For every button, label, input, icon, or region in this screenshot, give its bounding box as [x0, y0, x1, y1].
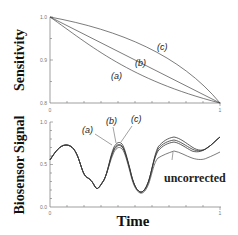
bottom-x-tick-1: 1: [219, 210, 222, 216]
annotation-leader-uncorrected: [172, 152, 173, 160]
bottom-annotation-b: (b): [106, 116, 117, 126]
annotation-leader-a: [95, 134, 112, 145]
bottom-y-tick-0.5: 0.5: [40, 161, 47, 167]
top-plot: Sensitivity 1.0 0.9 0.8 0 1 (a) (b) (c): [12, 14, 222, 113]
top-y-ticks: [50, 17, 53, 82]
bottom-y-tick-0.0: 0.0: [40, 204, 47, 210]
top-x-tick-0: 0: [49, 107, 52, 113]
top-x-tick-1: 1: [219, 107, 222, 113]
bottom-plot: Biosensor Signal 1.0 0.5 0.0 0 1: [12, 114, 226, 229]
annotation-leader-c: [121, 126, 132, 142]
top-y-tick-0.9: 0.9: [40, 57, 47, 63]
bottom-x-tick-0: 0: [49, 210, 52, 216]
top-annotation-c: (c): [157, 42, 168, 52]
bottom-x-ticks: [67, 205, 220, 210]
top-x-ticks: [67, 101, 220, 106]
top-y-tick-0.8: 0.8: [40, 100, 47, 106]
bottom-y-tick-1.0: 1.0: [40, 119, 47, 125]
bottom-y-axis-label: Biosensor Signal: [12, 115, 27, 214]
top-y-tick-1.0: 1.0: [40, 14, 47, 20]
bottom-y-ticks: [50, 122, 53, 199]
bottom-annotation-c: (c): [131, 114, 142, 124]
x-axis-label: Time: [116, 213, 149, 229]
chart-figure: Sensitivity 1.0 0.9 0.8 0 1 (a) (b) (c) …: [0, 0, 238, 235]
top-y-axis-label: Sensitivity: [12, 29, 27, 91]
top-annotation-b: (b): [135, 58, 146, 68]
bottom-annotation-a: (a): [82, 125, 93, 135]
top-annotation-a: (a): [111, 71, 122, 81]
bottom-annotation-uncorrected: uncorrected: [164, 171, 226, 185]
annotation-leader-b: [113, 127, 116, 143]
